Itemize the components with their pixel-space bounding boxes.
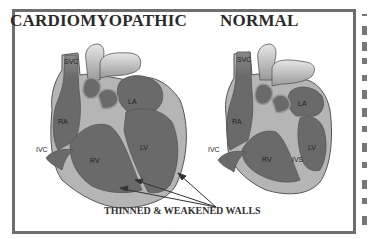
cropped-side-text [362, 0, 369, 239]
cropped-glyph [362, 162, 367, 168]
cardiomyopathic-heart: SVC RA LA IVC RV LV [36, 44, 186, 208]
label-rv: RV [90, 157, 100, 164]
label-ivs: IVS [292, 156, 304, 163]
thinned-walls-caption: THINNED & WEAKENED WALLS [104, 205, 261, 216]
label-lv: LV [308, 144, 316, 151]
cropped-glyph [362, 90, 367, 99]
cropped-glyph [362, 42, 367, 51]
label-ra: RA [58, 118, 68, 125]
label-ivc: IVC [208, 146, 220, 153]
label-svc: SVC [237, 56, 251, 63]
label-rv: RV [262, 156, 272, 163]
cropped-glyph [362, 14, 367, 16]
cropped-glyph [362, 108, 367, 117]
label-svc: SVC [64, 58, 78, 65]
normal-heart: SVC RA LA IVC RV IVS LV [208, 44, 332, 194]
label-ra: RA [232, 118, 242, 125]
label-la: LA [128, 98, 137, 105]
heart-diagram: SVC RA LA IVC RV LV SVC RA LA IVC RV IVS… [0, 0, 369, 239]
cropped-glyph [362, 180, 367, 189]
cropped-glyph [362, 143, 367, 152]
cropped-glyph [362, 126, 367, 132]
label-lv: LV [140, 144, 148, 151]
label-la: LA [298, 100, 307, 107]
cropped-glyph [362, 26, 367, 35]
cropped-glyph [362, 58, 367, 64]
label-ivc: IVC [36, 146, 48, 153]
cropped-glyph [362, 75, 367, 81]
cropped-glyph [362, 216, 367, 225]
cropped-glyph [362, 198, 367, 204]
